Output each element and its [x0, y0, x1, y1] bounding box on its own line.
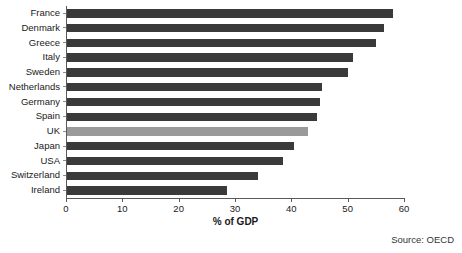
x-tick: [122, 198, 123, 202]
bar-row: Greece: [66, 36, 404, 51]
bar-italy: [66, 53, 353, 61]
bar-netherlands: [66, 83, 322, 91]
x-tick-label-30: 30: [230, 203, 241, 214]
x-tick: [291, 198, 292, 202]
category-label-greece: Greece: [29, 36, 60, 51]
bar-row: Switzerland: [66, 168, 404, 183]
plot-area: FranceDenmarkGreeceItalySwedenNetherland…: [66, 6, 404, 198]
category-label-france: France: [30, 6, 60, 21]
category-label-italy: Italy: [43, 50, 60, 65]
bar-germany: [66, 98, 320, 106]
x-tick: [179, 198, 180, 202]
bar-switzerland: [66, 172, 258, 180]
x-tick: [66, 198, 67, 202]
x-tick-label-0: 0: [63, 203, 68, 214]
x-tick: [235, 198, 236, 202]
category-label-japan: Japan: [34, 139, 60, 154]
bar-usa: [66, 157, 283, 165]
bar-row: Germany: [66, 95, 404, 110]
x-tick: [348, 198, 349, 202]
bar-row: Italy: [66, 50, 404, 65]
bar-row: Netherlands: [66, 80, 404, 95]
x-tick-label-50: 50: [342, 203, 353, 214]
x-tick: [404, 198, 405, 202]
category-label-spain: Spain: [36, 109, 60, 124]
bar-row: Sweden: [66, 65, 404, 80]
bar-spain: [66, 113, 317, 121]
x-tick-label-60: 60: [399, 203, 410, 214]
bar-uk: [66, 127, 308, 135]
category-label-usa: USA: [40, 154, 60, 169]
category-label-ireland: Ireland: [31, 183, 60, 198]
x-tick-label-40: 40: [286, 203, 297, 214]
bar-sweden: [66, 68, 348, 76]
bar-row: UK: [66, 124, 404, 139]
bar-row: France: [66, 6, 404, 21]
source-note: Source: OECD: [391, 234, 454, 245]
bar-greece: [66, 39, 376, 47]
bar-denmark: [66, 24, 384, 32]
bar-row: Japan: [66, 139, 404, 154]
bar-japan: [66, 142, 294, 150]
bar-ireland: [66, 186, 227, 194]
category-label-netherlands: Netherlands: [9, 80, 60, 95]
category-label-denmark: Denmark: [21, 21, 60, 36]
x-tick-label-20: 20: [173, 203, 184, 214]
x-axis-title: % of GDP: [66, 216, 405, 227]
category-label-germany: Germany: [21, 95, 60, 110]
category-label-sweden: Sweden: [26, 65, 60, 80]
bar-row: Ireland: [66, 183, 404, 198]
x-tick-label-10: 10: [117, 203, 128, 214]
y-axis-line: [66, 6, 67, 198]
bar-chart: FranceDenmarkGreeceItalySwedenNetherland…: [0, 0, 462, 253]
category-label-switzerland: Switzerland: [11, 168, 60, 183]
bar-france: [66, 9, 393, 17]
category-label-uk: UK: [47, 124, 60, 139]
bar-row: Denmark: [66, 21, 404, 36]
bar-row: Spain: [66, 109, 404, 124]
bar-row: USA: [66, 154, 404, 169]
